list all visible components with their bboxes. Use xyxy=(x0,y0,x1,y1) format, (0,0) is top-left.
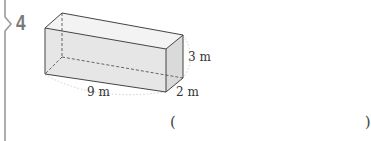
height-label: 3 m xyxy=(188,51,211,63)
length-label: 9 m xyxy=(87,86,110,98)
width-label: 2 m xyxy=(176,86,199,98)
open-paren: ( xyxy=(170,113,176,131)
close-paren: ) xyxy=(365,113,371,131)
answer-input[interactable] xyxy=(180,112,361,132)
answer-blank: ( ) xyxy=(170,112,328,132)
